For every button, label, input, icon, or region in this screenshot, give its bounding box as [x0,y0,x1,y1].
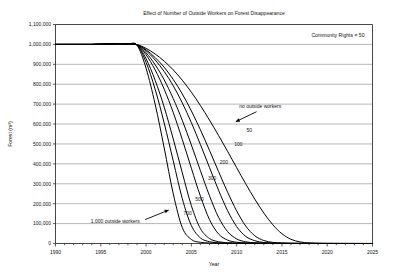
series-label: 200 [220,159,229,165]
x-tick-label: 1995 [95,249,106,255]
y-tick-label: 300,000 [33,181,51,187]
series-label: 300 [208,175,217,181]
x-tick-label: 1990 [50,249,61,255]
x-axis-title: Year [209,261,220,267]
forest-disappearance-line-chart: Effect of Number of Outside Workers on F… [0,0,408,275]
series-label: 700 [184,210,193,216]
series-label: 500 [195,196,204,202]
series-label: 100 [234,141,243,147]
y-tick-label: 800,000 [33,81,51,87]
x-tick-label: 2025 [367,249,378,255]
y-tick-label: 500,000 [33,141,51,147]
y-tick-label: 400,000 [33,161,51,167]
series-label: no outside workers [239,103,281,109]
y-tick-label: 700,000 [33,101,51,107]
y-tick-label: 100,000 [33,220,51,226]
x-tick-label: 2010 [231,249,242,255]
x-tick-label: 2005 [186,249,197,255]
chart-title: Effect of Number of Outside Workers on F… [143,10,285,16]
y-tick-label: 1,000,000 [29,41,51,47]
series-label: 50 [247,127,253,133]
community-rights-annotation: Community Rights = 50 [311,32,364,38]
series-label: 1,000 outside workers [91,218,140,224]
y-tick-label: 0 [48,240,51,246]
y-tick-label: 600,000 [33,121,51,127]
x-tick-label: 2020 [322,249,333,255]
chart-figure: Effect of Number of Outside Workers on F… [0,0,408,275]
y-tick-label: 200,000 [33,201,51,207]
y-tick-label: 900,000 [33,61,51,67]
y-tick-label: 1,100,000 [29,21,51,27]
y-axis-title: Forest (m³) [7,121,13,147]
x-tick-label: 2000 [141,249,152,255]
x-tick-label: 2015 [276,249,287,255]
